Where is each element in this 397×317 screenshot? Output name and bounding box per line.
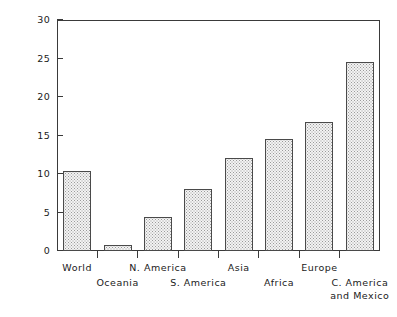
y-axis-tick-label: 20: [22, 92, 50, 102]
y-axis-tick: [57, 135, 63, 136]
x-axis-tick: [218, 251, 219, 258]
y-axis-tick: [57, 58, 63, 59]
y-axis-tick: [57, 173, 63, 174]
y-axis-tick: [57, 250, 63, 251]
bar: [225, 158, 253, 251]
bar-chart-figure: Percentage of vegetated land 05101520253…: [0, 0, 397, 317]
y-axis-tick: [57, 212, 63, 213]
y-axis-tick: [57, 19, 63, 20]
y-axis-tick: [57, 96, 63, 97]
x-axis-tick: [258, 251, 259, 258]
bar: [184, 189, 212, 251]
y-axis-tick-label: 10: [22, 169, 50, 179]
y-axis-tick-label: 5: [22, 208, 50, 218]
y-axis-tick-label: 15: [22, 131, 50, 141]
bar: [63, 171, 91, 251]
x-axis-tick-label: Europe: [264, 262, 374, 274]
bar: [144, 217, 172, 251]
x-axis-tick: [339, 251, 340, 258]
x-axis-tick: [137, 251, 138, 258]
bar: [346, 62, 374, 251]
bar: [265, 139, 293, 251]
x-axis-tick-label: C. America: [305, 277, 397, 289]
bar: [305, 122, 333, 251]
y-axis-tick-label: 30: [22, 15, 50, 25]
y-axis-tick-label: 0: [22, 246, 50, 256]
x-axis-tick: [97, 251, 98, 258]
x-axis-tick: [299, 251, 300, 258]
x-axis-tick-label: and Mexico: [305, 290, 397, 302]
y-axis-tick-label: 25: [22, 54, 50, 64]
x-axis-tick: [178, 251, 179, 258]
bar: [104, 245, 132, 251]
